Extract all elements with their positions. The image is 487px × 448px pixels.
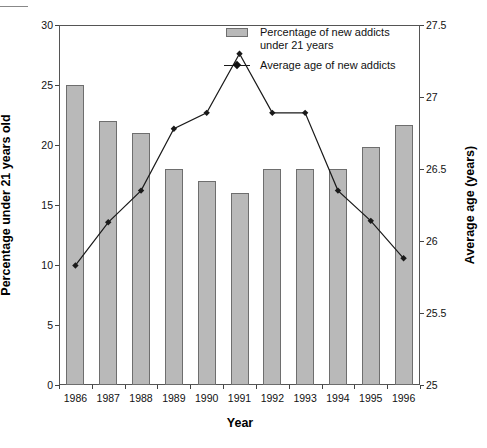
x-tick-mark [289,385,290,389]
x-tick-1988: 1988 [129,392,152,404]
y-axis-left-title: Percentage under 21 years old [0,114,13,295]
y-right-tick-27: 27 [420,91,438,103]
x-tick-1992: 1992 [261,392,284,404]
marker-1993 [302,110,308,116]
plot-area: 051015202530 2525.52626.52727.5 19861987… [59,25,420,385]
average-age-line [75,54,403,266]
x-tick-mark [256,385,257,389]
chart-container: Percentage under 21 years old Average ag… [0,0,487,448]
y-left-tick-5: 5 [47,319,59,331]
y-left-tick-25: 25 [41,79,59,91]
x-tick-mark [125,385,126,389]
legend-label: Average age of new addicts [260,59,396,72]
legend: Percentage of new addicts under 21 years… [222,26,396,79]
x-tick-1993: 1993 [293,392,316,404]
line-series [59,25,420,385]
x-tick-mark [223,385,224,389]
x-tick-mark [354,385,355,389]
x-tick-1987: 1987 [97,392,120,404]
scan-artifact [0,6,28,7]
y-right-tick-26.5: 26.5 [420,163,446,175]
x-tick-mark [322,385,323,389]
x-tick-mark [92,385,93,389]
legend-label: Percentage of new addicts under 21 years [260,26,390,52]
y-left-tick-20: 20 [41,139,59,151]
y-right-tick-25.5: 25.5 [420,307,446,319]
x-tick-1990: 1990 [195,392,218,404]
y-right-tick-26: 26 [420,235,438,247]
x-tick-mark [59,385,60,389]
y-left-tick-0: 0 [47,379,59,391]
line-swatch-icon [222,59,252,72]
y-left-tick-30: 30 [41,19,59,31]
y-axis-right-title: Average age (years) [463,146,477,264]
x-axis-title: Year [227,416,253,430]
y-right-tick-27.5: 27.5 [420,19,446,31]
y-left-tick-10: 10 [41,259,59,271]
y-right-tick-25: 25 [420,379,438,391]
x-tick-1995: 1995 [359,392,382,404]
y-left-tick-15: 15 [41,199,59,211]
x-tick-1989: 1989 [162,392,185,404]
marker-1992 [269,110,275,116]
x-tick-1991: 1991 [228,392,251,404]
x-tick-mark [387,385,388,389]
x-tick-mark [157,385,158,389]
bar-swatch-icon [222,26,252,39]
marker-1989 [171,125,177,131]
x-tick-1986: 1986 [64,392,87,404]
x-tick-1996: 1996 [392,392,415,404]
legend-item-percentage: Percentage of new addicts under 21 years [222,26,396,52]
x-tick-mark [190,385,191,389]
x-tick-mark [420,385,421,389]
x-tick-1994: 1994 [326,392,349,404]
legend-item-average-age: Average age of new addicts [222,59,396,72]
marker-1990 [203,110,209,116]
